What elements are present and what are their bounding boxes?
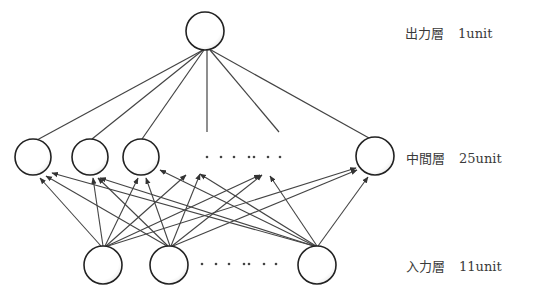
hidden-layer-units: 25unit bbox=[459, 151, 502, 166]
hidden-layer-label: 中間層25unit bbox=[406, 148, 502, 167]
input-node-last bbox=[298, 246, 336, 284]
input-layer-units: 11unit bbox=[459, 259, 502, 274]
hidden-layer-name: 中間層 bbox=[406, 151, 445, 166]
input-ellipsis bbox=[201, 263, 278, 266]
output-hidden-connections bbox=[37, 50, 369, 140]
hidden-ellipsis bbox=[206, 156, 282, 159]
output-layer-units: 1unit bbox=[458, 26, 492, 41]
hidden-node-last bbox=[356, 137, 394, 175]
input-layer-name: 入力層 bbox=[406, 259, 445, 274]
input-hidden-connections bbox=[40, 168, 368, 246]
hidden-node-3 bbox=[123, 139, 159, 175]
input-layer-label: 入力層11unit bbox=[406, 256, 502, 275]
output-layer-name: 出力層 bbox=[405, 26, 444, 41]
hidden-node-2 bbox=[72, 139, 108, 175]
output-layer-label: 出力層1unit bbox=[405, 23, 492, 42]
input-node-1 bbox=[84, 246, 122, 284]
output-node bbox=[186, 12, 224, 50]
input-node-2 bbox=[150, 246, 188, 284]
hidden-node-1 bbox=[15, 139, 51, 175]
